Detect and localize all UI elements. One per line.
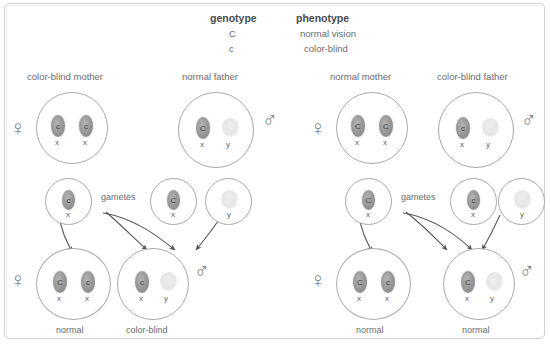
left-mother-chromosome-0: c — [51, 115, 65, 137]
right-daughter-chromosome-0: C — [353, 271, 367, 293]
right-gamete-2-letter: y — [520, 210, 524, 219]
right-father-chromosome-0: c — [456, 117, 470, 139]
right-gamete-1: c x — [450, 178, 497, 225]
right-son-cell: C x y — [443, 248, 515, 320]
right-mother-cell: C C x x — [336, 92, 408, 164]
right-gamete-1-letter: x — [471, 210, 475, 219]
left-mother-letter-1: x — [83, 138, 87, 147]
right-father-chromosome-1 — [482, 118, 499, 137]
right-gamete-1-chromosome: c — [467, 190, 480, 210]
legend-genotype-1: c — [229, 43, 234, 54]
legend-phenotype-0: normal vision — [300, 28, 356, 39]
right-gametes-label: gametes — [401, 192, 436, 202]
right-mother-letter-1: x — [383, 138, 387, 147]
female-symbol-right-daughter: ♀ — [310, 268, 326, 292]
left-gamete-2-letter: y — [227, 210, 231, 219]
left-son-chromosome-0: c — [135, 271, 149, 293]
left-son-letter-0: x — [139, 294, 143, 303]
male-symbol-left-father: ♂ — [262, 108, 278, 132]
legend-phenotype-1: color-blind — [304, 43, 348, 54]
right-father-cell: c x y — [438, 92, 514, 168]
right-daughter-chromosome-1: c — [381, 271, 395, 293]
left-father-letter-0: x — [200, 140, 204, 149]
left-mother-chromosome-1: c — [79, 115, 93, 137]
left-son-label: color-blind — [126, 325, 168, 335]
right-son-label: normal — [462, 325, 490, 335]
left-daughter-cell: C c x x — [36, 248, 111, 320]
left-daughter-letter-0: x — [57, 294, 61, 303]
right-gamete-2: y — [498, 178, 545, 225]
right-son-chromosome-0: C — [461, 271, 475, 293]
left-father-cell: C x y — [178, 92, 254, 168]
right-son-letter-0: x — [465, 294, 469, 303]
left-daughter-letter-1: x — [85, 294, 89, 303]
left-son-letter-1: y — [164, 294, 168, 303]
genetics-diagram: genotype phenotype C normal vision c col… — [0, 0, 550, 344]
left-daughter-chromosome-1: c — [81, 271, 95, 293]
right-daughter-cell: C c x x — [336, 248, 411, 320]
right-daughter-label: normal — [356, 325, 384, 335]
right-daughter-letter-1: x — [385, 294, 389, 303]
left-daughter-chromosome-0: C — [53, 271, 67, 293]
left-father-chromosome-0: C — [196, 117, 210, 139]
female-symbol-left-mother: ♀ — [10, 116, 26, 140]
left-gametes-label: gametes — [101, 192, 136, 202]
left-father-chromosome-1 — [222, 118, 239, 137]
left-gamete-0-chromosome: c — [62, 190, 75, 210]
left-mother-title: color-blind mother — [27, 71, 103, 82]
left-mother-cell: c c x x — [36, 92, 108, 164]
left-father-title: normal father — [182, 71, 238, 82]
legend-genotype-0: C — [229, 28, 236, 39]
left-daughter-label: normal — [56, 325, 84, 335]
right-gamete-0-letter: x — [366, 210, 370, 219]
left-gamete-1-chromosome: C — [167, 190, 180, 210]
left-gamete-2-chromosome — [221, 190, 238, 209]
right-father-title: color-blind father — [437, 71, 508, 82]
left-gamete-1-letter: x — [171, 210, 175, 219]
left-son-cell: c x y — [117, 248, 189, 320]
right-gamete-2-chromosome — [514, 190, 531, 209]
right-daughter-letter-0: x — [357, 294, 361, 303]
left-gamete-1: C x — [150, 178, 197, 225]
left-mother-letter-0: x — [55, 138, 59, 147]
female-symbol-left-daughter: ♀ — [10, 268, 26, 292]
male-symbol-right-father: ♂ — [521, 108, 537, 132]
right-mother-title: normal mother — [330, 71, 391, 82]
left-gamete-0-letter: x — [66, 210, 70, 219]
left-son-chromosome-1 — [160, 272, 177, 291]
right-father-letter-0: x — [460, 140, 464, 149]
right-gamete-0: C x — [345, 178, 392, 225]
right-son-chromosome-1 — [486, 272, 503, 291]
left-gamete-0: c x — [45, 178, 92, 225]
male-symbol-right-son: ♂ — [519, 259, 535, 283]
right-mother-chromosome-1: C — [379, 115, 393, 137]
right-father-letter-1: y — [486, 140, 490, 149]
legend-phenotype-header: phenotype — [296, 12, 349, 24]
female-symbol-right-mother: ♀ — [310, 116, 326, 140]
right-son-letter-1: y — [490, 294, 494, 303]
right-mother-letter-0: x — [355, 138, 359, 147]
right-gamete-0-chromosome: C — [362, 190, 375, 210]
male-symbol-left-son: ♂ — [194, 259, 210, 283]
legend-genotype-header: genotype — [210, 12, 257, 24]
left-gamete-2: y — [205, 178, 252, 225]
left-father-letter-1: y — [226, 140, 230, 149]
right-mother-chromosome-0: C — [351, 115, 365, 137]
